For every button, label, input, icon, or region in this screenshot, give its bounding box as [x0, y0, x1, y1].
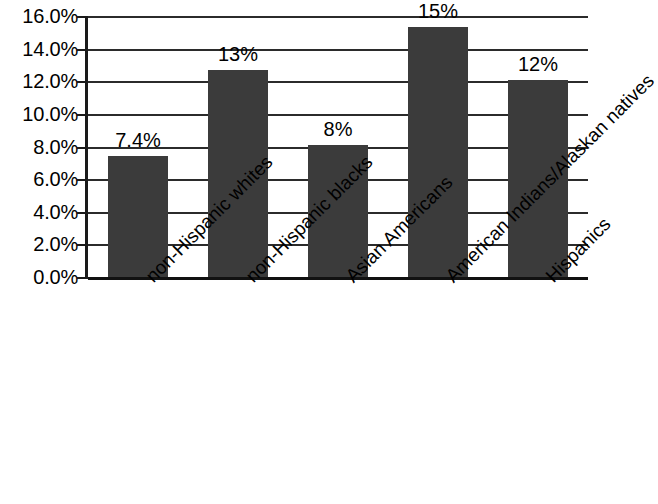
bars-layer: 7.4%13%8%15%12% — [88, 16, 588, 277]
y-axis-tick-mark — [77, 81, 88, 83]
y-axis-tick-label: 6.0% — [33, 169, 78, 189]
y-axis: 0.0%2.0%4.0%6.0%8.0%10.0%12.0%14.0%16.0% — [0, 0, 78, 504]
y-axis-tick-mark — [77, 244, 88, 246]
y-axis-tick-mark — [77, 49, 88, 51]
y-axis-tick-label: 0.0% — [33, 267, 78, 287]
y-axis-tick-mark — [77, 114, 88, 116]
bar-value-label: 12% — [518, 54, 558, 74]
x-axis: non-Hispanic whitesnon-Hispanic blacksAs… — [85, 279, 597, 504]
y-axis-tick-label: 16.0% — [22, 6, 78, 26]
bar-value-label: 13% — [218, 44, 258, 64]
plot-area: 7.4%13%8%15%12% — [85, 16, 588, 277]
bar-value-label: 8% — [324, 119, 353, 139]
bar-value-label: 15% — [418, 1, 458, 21]
y-axis-tick-label: 12.0% — [22, 71, 78, 91]
bar-value-label: 7.4% — [115, 130, 161, 150]
bar — [408, 27, 468, 277]
y-axis-tick-mark — [77, 147, 88, 149]
y-axis-tick-label: 4.0% — [33, 202, 78, 222]
y-axis-tick-mark — [77, 16, 88, 18]
y-axis-tick-label: 10.0% — [22, 104, 78, 124]
y-axis-tick-label: 2.0% — [33, 234, 78, 254]
y-axis-tick-label: 8.0% — [33, 137, 78, 157]
y-axis-tick-mark — [77, 179, 88, 181]
y-axis-tick-mark — [77, 212, 88, 214]
y-axis-tick-label: 14.0% — [22, 39, 78, 59]
